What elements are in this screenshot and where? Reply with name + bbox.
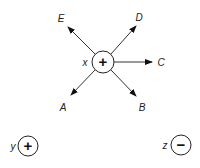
label-x: x xyxy=(82,57,89,68)
arrow-to-D xyxy=(111,26,136,54)
label-z: z xyxy=(162,140,168,151)
minus-sign: − xyxy=(177,136,186,153)
label-y: y xyxy=(10,141,17,152)
node-x: + x xyxy=(82,51,115,73)
label-E: E xyxy=(58,13,65,24)
label-C: C xyxy=(157,57,165,68)
plus-sign: + xyxy=(24,137,33,154)
arrow-to-B xyxy=(111,70,136,96)
label-A: A xyxy=(59,102,67,113)
label-B: B xyxy=(139,102,146,113)
arrow-to-E xyxy=(68,27,95,54)
node-y: + y xyxy=(10,136,39,156)
charge-diagram: + x E D C A B + y − z xyxy=(0,0,200,168)
label-D: D xyxy=(135,12,142,23)
plus-sign: + xyxy=(99,53,108,70)
arrow-to-A xyxy=(71,70,95,95)
node-z: − z xyxy=(162,135,192,155)
